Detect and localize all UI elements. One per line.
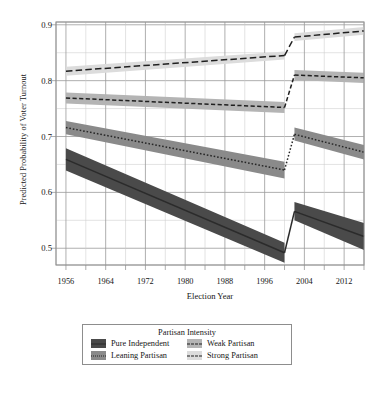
x-tick-label: 1964 <box>97 277 114 286</box>
x-tick-label: 1956 <box>58 277 75 286</box>
x-axis-title: Election Year <box>55 291 365 301</box>
legend-item[interactable]: Pure Independent <box>91 339 187 348</box>
legend-line-sample <box>91 343 106 344</box>
legend-label: Pure Independent <box>111 339 169 348</box>
y-tick-label: 0.5 <box>41 243 52 253</box>
legend-items: Pure IndependentWeak PartisanLeaning Par… <box>83 339 291 360</box>
x-tick-label: 1980 <box>177 277 194 286</box>
legend-swatch <box>91 339 106 348</box>
x-tick-label: 1972 <box>137 277 154 286</box>
x-tick-label: 1988 <box>217 277 234 286</box>
x-tick-label: 1996 <box>256 277 273 286</box>
legend-label: Weak Partisan <box>207 339 254 348</box>
y-tick-label: 0.6 <box>41 187 52 197</box>
legend-item[interactable]: Leaning Partisan <box>91 351 187 360</box>
legend-line-sample <box>187 343 202 344</box>
y-axis-title: Predicted Probability of Voter Turnout <box>19 25 28 255</box>
y-tick-label: 0.9 <box>41 20 52 30</box>
legend-item[interactable]: Strong Partisan <box>187 351 283 360</box>
legend-line-sample <box>187 355 202 356</box>
x-tick-label: 2012 <box>336 277 353 286</box>
y-tick-label: 0.7 <box>41 132 52 142</box>
x-tick-label: 2004 <box>296 277 313 286</box>
chart-figure: 0.50.60.70.80.9 Predicted Probability of… <box>0 0 376 401</box>
legend-title: Partisan Intensity <box>83 328 291 337</box>
legend-label: Leaning Partisan <box>111 351 167 360</box>
y-tick-label: 0.8 <box>41 76 52 86</box>
legend-label: Strong Partisan <box>207 351 258 360</box>
legend-line-sample <box>91 355 106 356</box>
legend-item[interactable]: Weak Partisan <box>187 339 283 348</box>
legend: Partisan Intensity Pure IndependentWeak … <box>82 324 292 365</box>
legend-swatch <box>91 351 106 360</box>
legend-swatch <box>187 351 202 360</box>
legend-swatch <box>187 339 202 348</box>
